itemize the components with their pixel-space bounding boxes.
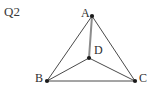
- segment-AB: [47, 16, 92, 81]
- vertex-label-d: D: [94, 44, 103, 56]
- question-label: Q2: [4, 5, 20, 18]
- vertex-point-A: [90, 14, 94, 18]
- vertex-point-B: [45, 79, 49, 83]
- vertex-point-D: [87, 56, 91, 60]
- geometry-figure: Q2 A B C D: [0, 0, 151, 93]
- vertex-label-a: A: [81, 7, 90, 19]
- segment-BD: [47, 58, 89, 81]
- vertex-label-c: C: [139, 72, 147, 84]
- vertex-point-C: [133, 79, 137, 83]
- segment-CD: [89, 58, 135, 81]
- segment-AD: [89, 16, 92, 58]
- geometry-canvas: [0, 0, 151, 93]
- vertex-label-b: B: [35, 72, 43, 84]
